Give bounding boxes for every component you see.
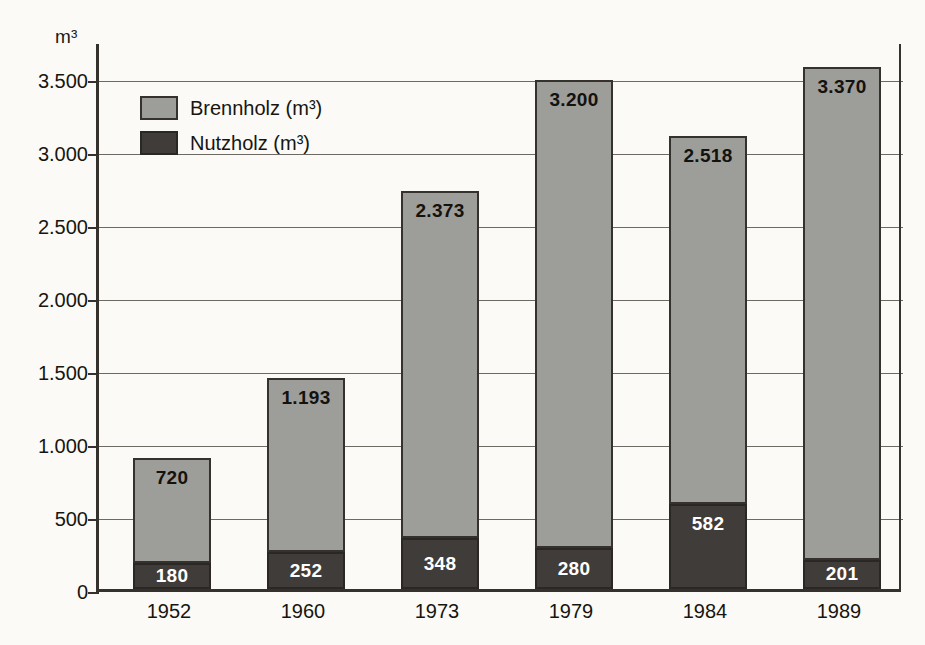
bar-stack[interactable]: 2.373348 <box>401 191 479 589</box>
bar-chart: m³ 05001.0001.5002.0002.5003.0003.500 72… <box>0 0 925 645</box>
chart-legend: Brennholz (m³)Nutzholz (m³) <box>140 96 322 155</box>
bar-value-label: 3.200 <box>549 89 598 111</box>
bar-value-label: 3.370 <box>817 76 866 98</box>
gridline <box>99 81 903 82</box>
bar-segment-nutzholz[interactable]: 582 <box>669 504 747 589</box>
bar-value-label: 720 <box>156 467 189 489</box>
plot-right-border <box>899 44 901 592</box>
bar-stack[interactable]: 2.518582 <box>669 136 747 589</box>
bar-segment-nutzholz[interactable]: 180 <box>133 563 211 589</box>
bar-stack[interactable]: 3.200280 <box>535 80 613 589</box>
x-axis-tick-label: 1952 <box>130 600 208 623</box>
bar-value-label: 201 <box>826 563 859 585</box>
gridline <box>99 227 903 228</box>
x-axis-tick-label: 1973 <box>398 600 476 623</box>
bar-value-label: 280 <box>558 558 591 580</box>
y-axis-tick <box>88 300 99 302</box>
y-axis-tick <box>88 154 99 156</box>
gridline <box>99 373 903 374</box>
gridline <box>99 446 903 447</box>
bar-segment-nutzholz[interactable]: 280 <box>535 548 613 589</box>
bar-segment-brennholz[interactable]: 720 <box>133 458 211 563</box>
y-axis-tick-label: 2.500 <box>4 215 88 238</box>
bar-value-label: 582 <box>692 513 725 535</box>
bar-segment-brennholz[interactable]: 1.193 <box>267 378 345 552</box>
gridline <box>99 519 903 520</box>
y-axis-tick-label: 3.500 <box>4 69 88 92</box>
bar-value-label: 2.373 <box>415 200 464 222</box>
y-axis-tick-label: 500 <box>4 507 88 530</box>
gridline <box>99 300 903 301</box>
x-axis-tick-label: 1960 <box>264 600 342 623</box>
y-axis-tick <box>88 446 99 448</box>
y-axis-tick <box>88 227 99 229</box>
bar-stack[interactable]: 720180 <box>133 457 211 589</box>
legend-item[interactable]: Brennholz (m³) <box>140 96 322 120</box>
bar-stack[interactable]: 3.370201 <box>803 67 881 589</box>
legend-item-label: Brennholz (m³) <box>190 97 322 120</box>
y-axis-tick <box>88 373 99 375</box>
bar-segment-brennholz[interactable]: 3.370 <box>803 67 881 559</box>
y-axis-tick <box>88 592 99 594</box>
y-axis-tick-label: 1.500 <box>4 361 88 384</box>
y-axis-labels: 05001.0001.5002.0002.5003.0003.500 <box>0 44 88 592</box>
bar-value-label: 1.193 <box>281 387 330 409</box>
legend-swatch-icon <box>140 96 178 120</box>
y-axis-tick <box>88 519 99 521</box>
y-axis-tick-label: 1.000 <box>4 434 88 457</box>
bar-segment-nutzholz[interactable]: 348 <box>401 538 479 589</box>
bar-segment-nutzholz[interactable]: 201 <box>803 560 881 589</box>
y-axis-tick-label: 3.000 <box>4 142 88 165</box>
bar-stack[interactable]: 1.193252 <box>267 378 345 589</box>
bar-segment-brennholz[interactable]: 3.200 <box>535 80 613 548</box>
y-axis-tick-label: 2.000 <box>4 288 88 311</box>
legend-item-label: Nutzholz (m³) <box>190 132 310 155</box>
bar-segment-brennholz[interactable]: 2.518 <box>669 136 747 504</box>
bar-segment-nutzholz[interactable]: 252 <box>267 552 345 589</box>
bar-value-label: 180 <box>156 565 189 587</box>
x-axis-tick-label: 1984 <box>666 600 744 623</box>
bar-value-label: 252 <box>290 560 323 582</box>
y-axis-tick-label: 0 <box>4 581 88 604</box>
bar-value-label: 348 <box>424 553 457 575</box>
y-axis-tick <box>88 81 99 83</box>
bar-segment-brennholz[interactable]: 2.373 <box>401 191 479 538</box>
legend-item[interactable]: Nutzholz (m³) <box>140 131 322 155</box>
bar-value-label: 2.518 <box>683 145 732 167</box>
x-axis-tick-label: 1979 <box>532 600 610 623</box>
x-axis-tick-label: 1989 <box>800 600 878 623</box>
legend-swatch-icon <box>140 131 178 155</box>
